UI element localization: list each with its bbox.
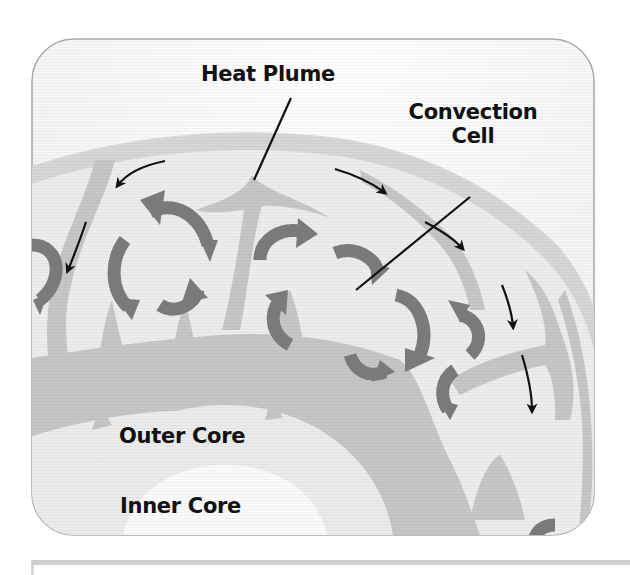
label-convection-line2: Cell (398, 124, 548, 148)
label-convection-line1: Convection (398, 100, 548, 124)
label-convection-cell: Convection Cell (398, 100, 548, 148)
label-outer-core: Outer Core (119, 424, 245, 448)
bottom-divider (31, 560, 630, 565)
bottom-divider-stub (31, 565, 34, 575)
label-inner-core: Inner Core (120, 494, 241, 518)
label-heat-plume: Heat Plume (201, 62, 335, 86)
